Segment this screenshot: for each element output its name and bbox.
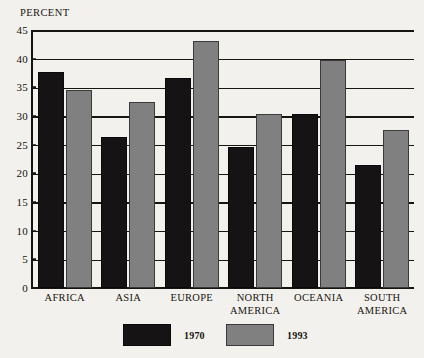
bar-oceania-1970 — [292, 114, 318, 288]
bar-asia-1970 — [101, 137, 127, 288]
category-label-line: America — [218, 305, 294, 318]
bar-south-america-1993 — [383, 130, 409, 288]
bar-africa-1970 — [38, 72, 64, 288]
bar-africa-1993 — [66, 90, 92, 288]
category-label-line: South — [345, 292, 421, 305]
legend-item-1970: 1970 — [123, 324, 205, 346]
category-label-line: America — [345, 305, 421, 318]
y-tick-label: 25 — [2, 139, 28, 151]
legend-label-1993: 1993 — [287, 330, 308, 341]
chart-legend: 19701993 — [0, 324, 424, 350]
legend-swatch-1970 — [123, 324, 171, 346]
category-label-south-america: SouthAmerica — [345, 292, 421, 317]
y-tick-label: 0 — [2, 282, 28, 294]
bar-europe-1993 — [193, 41, 219, 288]
bar-asia-1993 — [129, 102, 155, 288]
y-tick-label: 5 — [2, 253, 28, 265]
y-axis-title: PERCENT — [20, 7, 69, 18]
legend-swatch-1993 — [226, 324, 274, 346]
bar-south-america-1970 — [355, 165, 381, 288]
legend-label-1970: 1970 — [184, 330, 205, 341]
y-tick-label: 45 — [2, 24, 28, 36]
y-tick-label: 10 — [2, 225, 28, 237]
y-tick-label: 15 — [2, 196, 28, 208]
y-tick-label: 35 — [2, 81, 28, 93]
y-tick-label: 40 — [2, 53, 28, 65]
bars-layer — [33, 30, 414, 288]
bar-north-america-1993 — [256, 114, 282, 288]
legend-item-1993: 1993 — [226, 324, 308, 346]
y-tick-label: 20 — [2, 167, 28, 179]
bar-chart: PERCENT 051015202530354045 AfricaAsiaEur… — [0, 0, 424, 358]
bar-oceania-1993 — [320, 60, 346, 288]
bar-europe-1970 — [165, 78, 191, 288]
bar-north-america-1970 — [228, 147, 254, 288]
y-tick-label: 30 — [2, 110, 28, 122]
